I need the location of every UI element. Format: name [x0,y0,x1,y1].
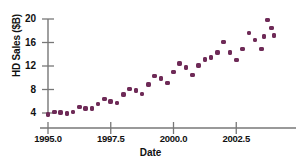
data-point [203,57,208,62]
data-point [121,92,126,97]
data-point [171,70,176,75]
y-tick-label: 16 [14,37,36,48]
data-point [221,40,226,45]
data-point [127,87,132,92]
data-point [240,47,245,52]
y-tick-label: 4 [14,107,36,118]
data-point [262,34,267,39]
scatter-plot: HD Sales ($B) Date 48121620 1995.01997.5… [0,0,301,165]
data-point [108,99,113,104]
y-tick-label: 12 [14,60,36,71]
data-point [90,106,95,111]
data-point [259,47,264,52]
x-tick-label: 2002.5 [212,133,260,144]
y-tick-label: 8 [14,84,36,95]
data-point [190,73,195,78]
data-point [83,106,88,111]
data-point [77,105,82,110]
data-point [58,110,63,115]
data-point [52,110,57,115]
data-point [234,58,239,63]
data-point [272,33,277,38]
data-point [196,63,201,68]
data-point [269,26,274,31]
x-tick-label: 2000.0 [150,133,198,144]
data-point [134,88,139,93]
x-tick-label: 1995.0 [24,133,72,144]
data-point [102,97,107,102]
data-point [159,76,164,81]
y-tick-label: 20 [14,13,36,24]
x-axis-title: Date [0,147,301,158]
data-point [146,82,151,87]
data-point [65,111,70,116]
x-tick-label: 1997.5 [87,133,135,144]
data-point [215,50,220,55]
data-point [177,61,182,66]
data-point [165,81,170,86]
data-point [228,50,233,55]
